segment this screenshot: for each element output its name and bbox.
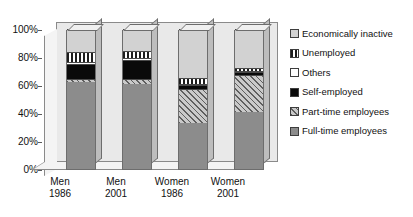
y-tick-mark-20 — [38, 142, 42, 143]
bar-segment-unemployed — [123, 51, 151, 57]
y-tick-mark-80 — [38, 58, 42, 59]
x-label-line1: Women — [142, 176, 202, 188]
legend-label: Self-employed — [302, 87, 363, 97]
legend-label: Full-time employees — [302, 126, 387, 136]
y-tick-label-100: 100% — [12, 25, 38, 35]
bar-segment-inactive — [179, 29, 207, 78]
x-label-line1: Men — [86, 176, 146, 188]
y-tick-mark-100 — [38, 30, 42, 31]
legend-label: Others — [302, 68, 331, 78]
y-tick-label-60: 60% — [18, 81, 38, 91]
legend-item-parttime[interactable]: Part-time employees — [290, 102, 410, 122]
bar-segment-others — [123, 58, 151, 60]
legend-item-others[interactable]: Others — [290, 63, 410, 83]
x-label-line1: Men — [30, 176, 90, 188]
legend-item-selfemployed[interactable]: Self-employed — [290, 83, 410, 103]
bar-stack — [122, 30, 152, 170]
bars-layer — [44, 22, 285, 170]
x-label-line2: 1986 — [142, 188, 202, 200]
y-tick-mark-60 — [38, 86, 42, 87]
legend-swatch-selfemployed-icon — [290, 88, 299, 97]
x-label-line2: 1986 — [30, 188, 90, 200]
legend-swatch-unemployed-icon — [290, 49, 299, 58]
bar-segment-parttime — [179, 89, 207, 123]
x-label-line2: 2001 — [198, 188, 258, 200]
bar-segment-others — [67, 62, 95, 64]
bar-segment-parttime — [235, 75, 263, 111]
x-label-line2: 2001 — [86, 188, 146, 200]
legend-swatch-inactive-icon — [290, 29, 299, 38]
bar-side-face — [95, 18, 102, 164]
y-tick-mark-0 — [38, 170, 42, 171]
bar-segment-selfemployed — [123, 60, 151, 80]
stacked-bar-chart: 100% 80% 60% 40% 20% 0% Men 1986 Men 200… — [0, 0, 413, 217]
legend-item-inactive[interactable]: Economically inactive — [290, 24, 410, 44]
bar-segment-inactive — [123, 29, 151, 51]
bar-segment-inactive — [67, 29, 95, 52]
bar-segment-selfemployed — [235, 72, 263, 75]
y-tick-mark-40 — [38, 114, 42, 115]
legend-item-unemployed[interactable]: Unemployed — [290, 44, 410, 64]
bar-segment-unemployed — [179, 78, 207, 84]
x-label-line1: Women — [198, 176, 258, 188]
y-tick-label-80: 80% — [18, 53, 38, 63]
chart-legend: Economically inactiveUnemployedOthersSel… — [290, 24, 410, 141]
bar-segment-unemployed — [67, 52, 95, 62]
bar-segment-unemployed — [235, 68, 263, 72]
legend-label: Economically inactive — [302, 29, 393, 39]
y-tick-label-20: 20% — [18, 137, 38, 147]
bar-segment-selfemployed — [67, 64, 95, 79]
bar-segment-others — [235, 71, 263, 72]
bar-segment-selfemployed — [179, 85, 207, 89]
bar-segment-fulltime — [123, 84, 151, 169]
x-label-men-1986: Men 1986 — [30, 176, 90, 200]
bar-segment-fulltime — [67, 82, 95, 169]
legend-swatch-others-icon — [290, 68, 299, 77]
bar-side-face — [151, 18, 158, 164]
legend-item-fulltime[interactable]: Full-time employees — [290, 122, 410, 142]
legend-swatch-fulltime-icon — [290, 127, 299, 136]
bar-segment-fulltime — [179, 123, 207, 169]
plot-area — [44, 22, 285, 182]
legend-swatch-parttime-icon — [290, 107, 299, 116]
y-tick-label-40: 40% — [18, 109, 38, 119]
legend-label: Part-time employees — [302, 107, 389, 117]
y-axis: 100% 80% 60% 40% 20% 0% — [0, 22, 42, 172]
bar-stack — [66, 30, 96, 170]
x-label-women-1986: Women 1986 — [142, 176, 202, 200]
bar-side-face — [207, 18, 214, 164]
bar-segment-parttime — [123, 79, 151, 83]
bar-stack — [234, 30, 264, 170]
x-label-men-2001: Men 2001 — [86, 176, 146, 200]
bar-stack — [178, 30, 208, 170]
bar-segment-parttime — [67, 79, 95, 82]
bar-segment-others — [179, 84, 207, 85]
bar-segment-inactive — [235, 29, 263, 68]
x-label-women-2001: Women 2001 — [198, 176, 258, 200]
legend-label: Unemployed — [302, 48, 355, 58]
bar-side-face — [263, 18, 270, 164]
bar-segment-fulltime — [235, 112, 263, 169]
